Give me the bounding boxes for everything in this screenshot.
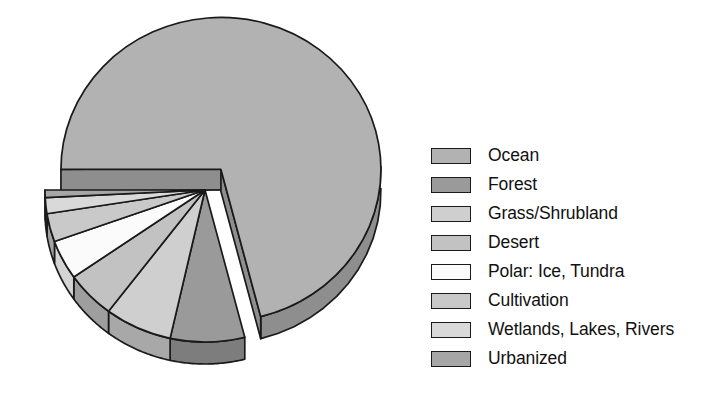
legend-item[interactable]: Desert: [431, 228, 703, 257]
legend-item[interactable]: Cultivation: [431, 286, 703, 315]
legend-item-label: Cultivation: [488, 292, 569, 310]
legend-item-label: Forest: [488, 176, 537, 194]
legend-item[interactable]: Grass/Shrubland: [431, 199, 703, 228]
legend-swatch: [431, 264, 471, 280]
legend-item-label: Wetlands, Lakes, Rivers: [488, 321, 674, 339]
legend-item[interactable]: Forest: [431, 170, 703, 199]
legend-item[interactable]: Ocean: [431, 141, 703, 170]
legend-swatch: [431, 148, 471, 164]
pie-slices-group: [45, 17, 381, 364]
legend-swatch: [431, 235, 471, 251]
legend-item[interactable]: Wetlands, Lakes, Rivers: [431, 315, 703, 344]
chart-legend: OceanForestGrass/ShrublandDesertPolar: I…: [431, 141, 703, 373]
legend-swatch: [431, 322, 471, 338]
legend-swatch: [431, 293, 471, 309]
legend-item-label: Ocean: [488, 147, 539, 165]
legend-swatch: [431, 351, 471, 367]
legend-item-label: Urbanized: [488, 350, 567, 368]
legend-item-label: Polar: Ice, Tundra: [488, 263, 624, 281]
legend-item[interactable]: Urbanized: [431, 344, 703, 373]
chart-canvas: OceanForestGrass/ShrublandDesertPolar: I…: [0, 0, 713, 411]
legend-item-label: Desert: [488, 234, 539, 252]
legend-item[interactable]: Polar: Ice, Tundra: [431, 257, 703, 286]
legend-swatch: [431, 206, 471, 222]
legend-item-label: Grass/Shrubland: [488, 205, 618, 223]
legend-swatch: [431, 177, 471, 193]
